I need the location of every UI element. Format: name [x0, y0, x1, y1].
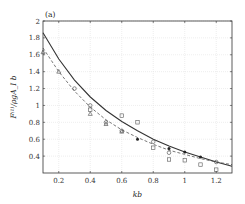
- filled-circle-marker: [199, 155, 202, 158]
- filled-circle-marker: [168, 147, 171, 150]
- y-tick-label: 1.2: [29, 85, 40, 93]
- grid: [43, 21, 232, 173]
- y-tick-label: 1.6: [29, 51, 41, 59]
- x-tick-label: 0.2: [53, 177, 64, 185]
- y-tick-label: 1: [36, 102, 40, 110]
- x-tick-label: 1: [183, 177, 187, 185]
- y-tick-label: 0.4: [29, 153, 41, 161]
- y-tick-label: 1.8: [29, 34, 40, 42]
- filled-circle-marker: [136, 138, 139, 141]
- y-axis-label: F⁽¹⁾/ρgA_I b: [9, 75, 18, 119]
- square-marker: [167, 158, 170, 161]
- y-tick-label: 0.6: [29, 136, 41, 144]
- y-tick-label: 1.4: [29, 68, 41, 76]
- curve-theory-solid: [43, 33, 232, 166]
- filled-circle-marker: [183, 150, 186, 153]
- x-tick-label: 0.8: [148, 177, 159, 185]
- y-tick-label: 2: [36, 18, 40, 26]
- circle-marker: [167, 151, 171, 155]
- chart: 0.20.40.60.811.20.40.60.811.21.41.61.82k…: [0, 0, 245, 204]
- x-tick-label: 0.6: [116, 177, 128, 185]
- markers-experiment-circles: [73, 87, 218, 164]
- curve-theory-dashed: [43, 48, 232, 165]
- y-tick-label: 0.8: [29, 119, 40, 127]
- plot-frame: [43, 21, 232, 173]
- x-tick-label: 0.4: [85, 177, 97, 185]
- square-marker: [199, 163, 202, 166]
- markers-experiment-triangles: [41, 50, 124, 133]
- x-tick-label: 1.2: [211, 177, 222, 185]
- x-axis-label: kb: [133, 190, 143, 199]
- panel-label: (a): [45, 10, 55, 19]
